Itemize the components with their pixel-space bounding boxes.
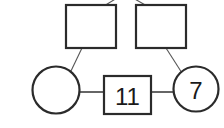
node-circle-bottom-left[interactable] xyxy=(33,67,80,114)
diagram-canvas: 11 7 xyxy=(0,0,224,128)
node-square-bottom-center-label: 11 xyxy=(115,83,140,110)
node-rect-top-right[interactable] xyxy=(136,5,186,48)
node-link-diagram: 11 7 xyxy=(0,0,224,128)
node-rect-top-left[interactable] xyxy=(66,5,116,48)
edge-rect-right-to-circle-right xyxy=(166,48,182,73)
node-circle-bottom-right-label: 7 xyxy=(189,77,202,104)
edge-rect-left-to-circle-left xyxy=(70,48,82,73)
